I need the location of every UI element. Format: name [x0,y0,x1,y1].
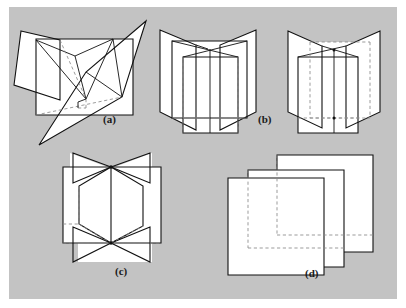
panel-b-right-node-bottom [333,117,336,120]
panel-b-left-group [160,30,256,133]
panel-b-right-group [288,31,380,133]
panel-label-a: (a) [103,113,116,125]
panel-b-right-node-top [333,49,336,52]
panel-label-d: (d) [305,267,318,279]
panel-label-c: (c) [115,265,127,277]
panel-d-plane-front-face [228,178,324,275]
figure-root: (a) (b) (c) (d) [0,0,406,308]
planes-diagram [0,0,406,308]
panel-label-b: (b) [258,113,271,125]
panel-c-node-bottom [109,241,113,245]
panel-d-group [228,155,373,275]
panel-b-right-plane-4-face [310,42,370,118]
panel-b-left-plane-4-face [183,57,238,133]
panel-a-group [14,21,146,145]
panel-c-node-top [109,165,113,169]
panel-c-group [63,153,161,262]
